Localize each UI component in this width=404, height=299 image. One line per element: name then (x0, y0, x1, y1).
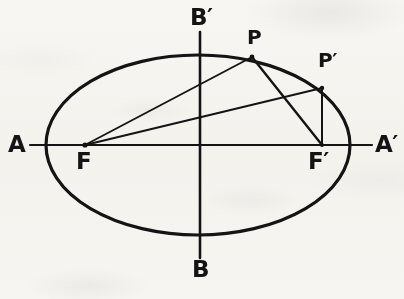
label-point-P-prime: P′ (318, 50, 337, 70)
ellipse-diagram-canvas: A A′ B′ B F F′ P P′ (0, 0, 404, 299)
focus-right-marker (320, 143, 324, 147)
point-p-marker (250, 55, 255, 60)
label-covertex-bottom-B: B (192, 258, 209, 281)
label-point-P: P (247, 27, 261, 47)
label-focus-left-F: F (76, 150, 91, 173)
label-vertex-right-A-prime: A′ (375, 133, 398, 156)
segment-p-to-focus-right (252, 57, 322, 145)
label-focus-right-F-prime: F′ (308, 150, 329, 173)
label-vertex-left-A: A (8, 133, 25, 156)
point-p-prime-marker (320, 86, 324, 90)
focus-left-marker (82, 142, 87, 147)
segment-focus-left-to-p-prime (85, 88, 322, 145)
ellipse-diagram-svg (0, 0, 404, 299)
label-covertex-top-B-prime: B′ (190, 6, 213, 29)
